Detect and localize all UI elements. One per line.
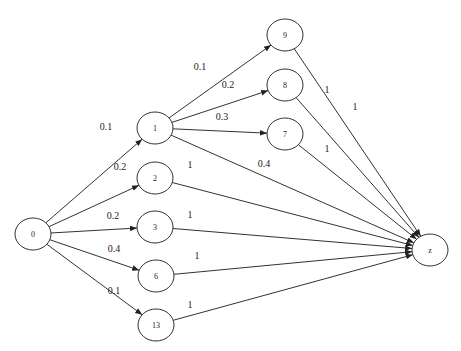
edge-0-to-2 (49, 185, 139, 226)
edge-weight-label: 1 (195, 250, 200, 261)
edge-weight-label: 1 (325, 143, 330, 154)
graph-diagram: 0.10.20.20.40.10.10.20.30.41111111 01236… (0, 0, 461, 351)
edge-weight-label: 0.2 (114, 161, 127, 172)
edge-weight-label: 0.1 (194, 61, 207, 72)
edge-weight-label: 1 (325, 84, 330, 95)
node-label: 8 (283, 81, 287, 90)
node-13: 13 (138, 309, 174, 341)
node-0: 0 (15, 218, 51, 250)
edge-weight-label: 1 (188, 209, 193, 220)
edge-weight-label: 0.3 (216, 111, 229, 122)
node-7: 7 (267, 118, 303, 150)
edge-1-to-7 (173, 129, 267, 133)
node-2: 2 (137, 162, 173, 194)
node-1: 1 (137, 112, 173, 144)
edge-2-to-z (172, 183, 412, 246)
node-9: 9 (267, 19, 303, 51)
edge-8-to-z (296, 98, 419, 238)
edge-1-to-9 (169, 45, 271, 118)
edge-13-to-z (173, 255, 413, 321)
edge-weight-label: 0.1 (108, 285, 121, 296)
edge-weight-label: 0.4 (108, 243, 121, 254)
node-label: 1 (153, 124, 157, 133)
node-label: 13 (152, 321, 160, 330)
node-label: z (428, 246, 432, 255)
node-3: 3 (137, 211, 173, 243)
node-8: 8 (267, 69, 303, 101)
node-label: 9 (283, 31, 287, 40)
node-label: 6 (154, 272, 158, 281)
edge-7-to-z (298, 145, 416, 240)
edge-6-to-z (174, 252, 412, 275)
graph-svg: 0.10.20.20.40.10.10.20.30.41111111 01236… (0, 0, 461, 351)
edge-0-to-3 (51, 228, 137, 233)
edge-0-to-1 (46, 139, 142, 223)
node-6: 6 (138, 260, 174, 292)
edge-weight-label: 0.2 (107, 210, 120, 221)
edge-0-to-6 (50, 240, 139, 271)
node-label: 7 (283, 130, 287, 139)
edge-weight-label: 0.1 (100, 121, 113, 132)
edge-weight-label: 1 (353, 101, 358, 112)
node-label: 3 (153, 223, 157, 232)
edge-3-to-z (173, 228, 412, 248)
edge-weight-label: 1 (188, 299, 193, 310)
edge-weight-label: 1 (188, 159, 193, 170)
node-label: 0 (31, 230, 35, 239)
node-label: 2 (153, 174, 157, 183)
edge-weight-label: 0.4 (258, 158, 271, 169)
edge-9-to-z (294, 49, 420, 237)
edge-1-to-z (171, 135, 414, 243)
edge-weight-label: 0.2 (222, 79, 235, 90)
node-z: z (412, 234, 448, 266)
